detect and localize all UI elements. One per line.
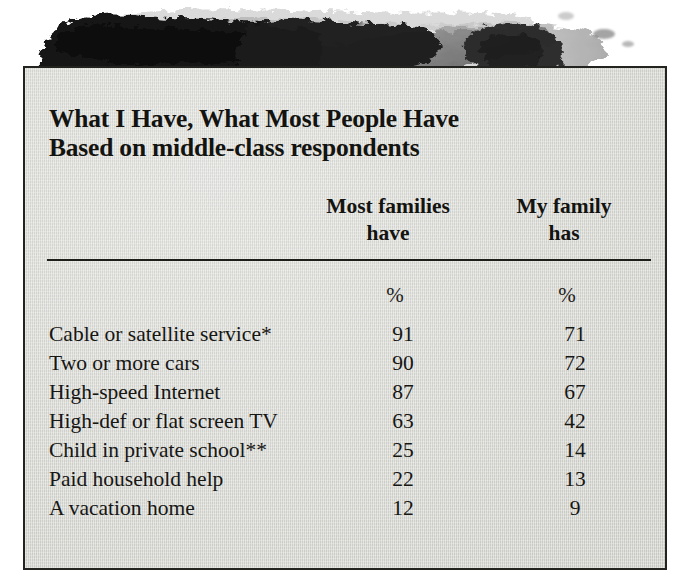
row-value-most-families: 22 [380, 465, 426, 494]
row-label: Two or more cars [49, 349, 200, 378]
table-body: Cable or satellite service* 91 71 Two or… [25, 320, 665, 523]
row-value-my-family: 42 [552, 407, 598, 436]
column-header-most-families-line1: Most families [297, 193, 479, 220]
table-row: Child in private school** 25 14 [25, 436, 665, 465]
unit-row: % % [25, 283, 665, 309]
row-value-my-family: 13 [552, 465, 598, 494]
row-label: High-speed Internet [49, 378, 220, 407]
row-label: A vacation home [49, 494, 195, 523]
row-value-most-families: 87 [380, 378, 426, 407]
row-value-my-family: 67 [552, 378, 598, 407]
row-value-most-families: 63 [380, 407, 426, 436]
unit-percent-my-family: % [537, 283, 597, 308]
table-row: High-def or flat screen TV 63 42 [25, 407, 665, 436]
figure-title: What I Have, What Most People Have [49, 104, 609, 133]
row-label: High-def or flat screen TV [49, 407, 278, 436]
row-label: Cable or satellite service* [49, 320, 272, 349]
table-row: A vacation home 12 9 [25, 494, 665, 523]
row-value-most-families: 12 [380, 494, 426, 523]
figure-panel: What I Have, What Most People Have Based… [23, 66, 667, 570]
column-header-my-family-line1: My family [485, 193, 643, 220]
table-row: High-speed Internet 87 67 [25, 378, 665, 407]
figure-subtitle: Based on middle-class respondents [49, 133, 609, 162]
row-label: Paid household help [49, 465, 223, 494]
row-value-most-families: 90 [380, 349, 426, 378]
unit-percent-most-families: % [365, 283, 425, 308]
row-value-my-family: 71 [552, 320, 598, 349]
table-row: Two or more cars 90 72 [25, 349, 665, 378]
table-row: Cable or satellite service* 91 71 [25, 320, 665, 349]
column-header-most-families-line2: have [297, 220, 479, 247]
page-canvas: What I Have, What Most People Have Based… [0, 0, 680, 586]
row-value-my-family: 72 [552, 349, 598, 378]
row-value-most-families: 25 [380, 436, 426, 465]
row-value-my-family: 14 [552, 436, 598, 465]
row-value-most-families: 91 [380, 320, 426, 349]
column-header-row: Most families have My family has [25, 193, 665, 255]
column-header-most-families: Most families have [297, 193, 479, 247]
row-value-my-family: 9 [552, 494, 598, 523]
figure-title-block: What I Have, What Most People Have Based… [49, 104, 609, 162]
column-header-my-family-line2: has [485, 220, 643, 247]
header-divider-rule [47, 259, 651, 261]
row-label: Child in private school** [49, 436, 267, 465]
table-row: Paid household help 22 13 [25, 465, 665, 494]
column-header-my-family: My family has [485, 193, 643, 247]
